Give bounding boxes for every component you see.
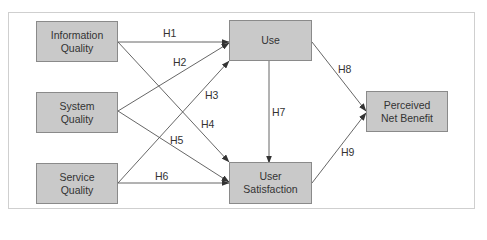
edge-label-h7: H7 xyxy=(272,106,285,118)
node-label: Quality xyxy=(59,113,94,126)
node-label: User xyxy=(243,170,297,183)
node-service-quality: ServiceQuality xyxy=(36,163,118,204)
edge-label-h6: H6 xyxy=(155,170,168,182)
node-use: Use xyxy=(229,20,312,61)
edge-label-h9: H9 xyxy=(341,146,354,158)
node-label: Net Benefit xyxy=(381,112,433,125)
node-label: Quality xyxy=(51,42,104,55)
edge-label-h8: H8 xyxy=(338,63,351,75)
node-system-quality: SystemQuality xyxy=(36,92,118,133)
edge-label-h3: H3 xyxy=(205,89,218,101)
node-label: Quality xyxy=(59,184,94,197)
arrow-h9 xyxy=(312,113,366,183)
edge-label-h4: H4 xyxy=(201,118,214,130)
edge-label-h2: H2 xyxy=(173,56,186,68)
node-label: Service xyxy=(59,171,94,184)
node-user-satisfaction: UserSatisfaction xyxy=(229,162,312,204)
node-label: System xyxy=(59,100,94,113)
arrow-h8 xyxy=(312,42,366,111)
node-perceived-net-benefit: PerceivedNet Benefit xyxy=(366,91,448,132)
node-label: Use xyxy=(261,34,280,47)
node-information-quality: InformationQuality xyxy=(36,21,118,62)
node-label: Satisfaction xyxy=(243,183,297,196)
edge-label-h5: H5 xyxy=(170,134,183,146)
node-label: Information xyxy=(51,29,104,42)
node-label: Perceived xyxy=(381,99,433,112)
edge-label-h1: H1 xyxy=(163,27,176,39)
